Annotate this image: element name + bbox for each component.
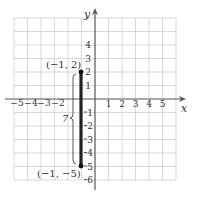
svg-text:−2: −2 <box>51 98 64 108</box>
svg-text:−4: −4 <box>24 98 38 108</box>
point-label-lower: (−1, −5) <box>37 168 81 179</box>
svg-text:4: 4 <box>85 40 91 50</box>
point-upper <box>79 70 84 75</box>
svg-text:2: 2 <box>85 67 91 77</box>
svg-text:3: 3 <box>87 135 93 145</box>
y-tick-labels-positive: 1 2 3 4 <box>85 40 91 91</box>
svg-text:3: 3 <box>133 99 139 109</box>
y-tick-labels-negative: 1 2 3 4 5 6 <box>84 108 93 186</box>
svg-text:−3: −3 <box>37 98 51 108</box>
svg-text:5: 5 <box>87 162 93 172</box>
svg-text:4: 4 <box>146 99 152 109</box>
svg-text:2: 2 <box>87 121 93 131</box>
svg-text:2: 2 <box>119 99 125 109</box>
svg-text:−5: −5 <box>10 98 24 108</box>
brace-icon <box>70 74 76 164</box>
svg-text:1: 1 <box>85 81 91 91</box>
svg-text:6: 6 <box>87 175 93 185</box>
svg-text:4: 4 <box>87 148 93 158</box>
svg-text:1: 1 <box>87 108 93 118</box>
coordinate-plane: y x −5 −4 −3 −2 1 2 3 4 5 1 2 3 4 1 2 3 … <box>0 0 201 200</box>
x-axis-label: x <box>181 102 188 115</box>
svg-text:1: 1 <box>106 99 112 109</box>
y-axis-label: y <box>83 8 91 21</box>
svg-text:3: 3 <box>85 54 91 64</box>
point-label-upper: (−1, 2) <box>46 59 81 70</box>
distance-label: 7 <box>62 113 69 124</box>
svg-text:5: 5 <box>160 99 166 109</box>
